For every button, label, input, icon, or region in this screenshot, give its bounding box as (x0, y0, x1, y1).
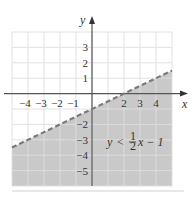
x-axis-label: x (181, 97, 188, 111)
y-axis-label: y (79, 13, 86, 27)
x-tick-label: 3 (137, 97, 143, 109)
y-tick-label: −3 (76, 134, 88, 146)
inequality-graph: −4−3−2−1234 321−2−3−4−5 x y y < 1 2 x − … (0, 0, 195, 198)
y-tick-label: 3 (83, 41, 89, 53)
y-tick-label: −2 (76, 118, 88, 130)
y-axis-arrow-icon (89, 16, 95, 24)
x-tick-label: −4 (19, 97, 31, 109)
x-tick-label: 4 (153, 97, 159, 109)
x-tick-label: −2 (51, 97, 63, 109)
x-tick-label: −1 (67, 97, 79, 109)
ineq-rest: x − 1 (137, 135, 163, 149)
y-tick-label: −5 (76, 165, 88, 177)
y-tick-label: −4 (76, 149, 88, 161)
x-tick-label: −3 (35, 97, 47, 109)
y-tick-label: 1 (83, 72, 89, 84)
ineq-denominator: 2 (130, 139, 136, 153)
y-tick-label: 2 (83, 57, 89, 69)
ineq-y: y (106, 135, 113, 149)
ineq-less-than: < (117, 135, 124, 149)
x-tick-label: 2 (121, 97, 127, 109)
